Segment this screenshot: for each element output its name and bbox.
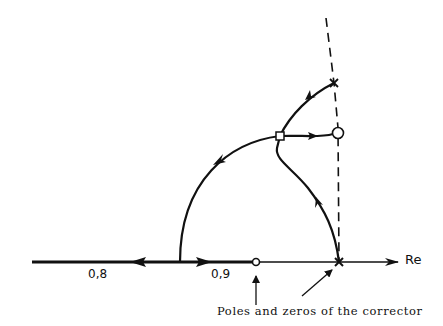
caption: Poles and zeros of the corrector bbox=[217, 304, 423, 318]
dashed-line bbox=[326, 18, 339, 262]
gain-label-0-9: 0,9 bbox=[211, 267, 230, 281]
pointer-arrow-pole bbox=[302, 270, 332, 296]
gain-label-0-8: 0,8 bbox=[88, 267, 107, 281]
locus-upper-branch bbox=[280, 83, 334, 136]
locus-s-curve bbox=[277, 136, 339, 262]
square-marker bbox=[276, 132, 284, 140]
zero-circle-upper bbox=[333, 128, 344, 139]
locus-to-zero bbox=[280, 134, 333, 136]
locus-arc bbox=[180, 136, 280, 262]
zero-circle-real bbox=[253, 259, 260, 266]
root-locus-diagram: Re 0,8 0,9 Poles and zeros of the correc… bbox=[0, 0, 443, 326]
axis-label-re: Re bbox=[405, 252, 421, 267]
